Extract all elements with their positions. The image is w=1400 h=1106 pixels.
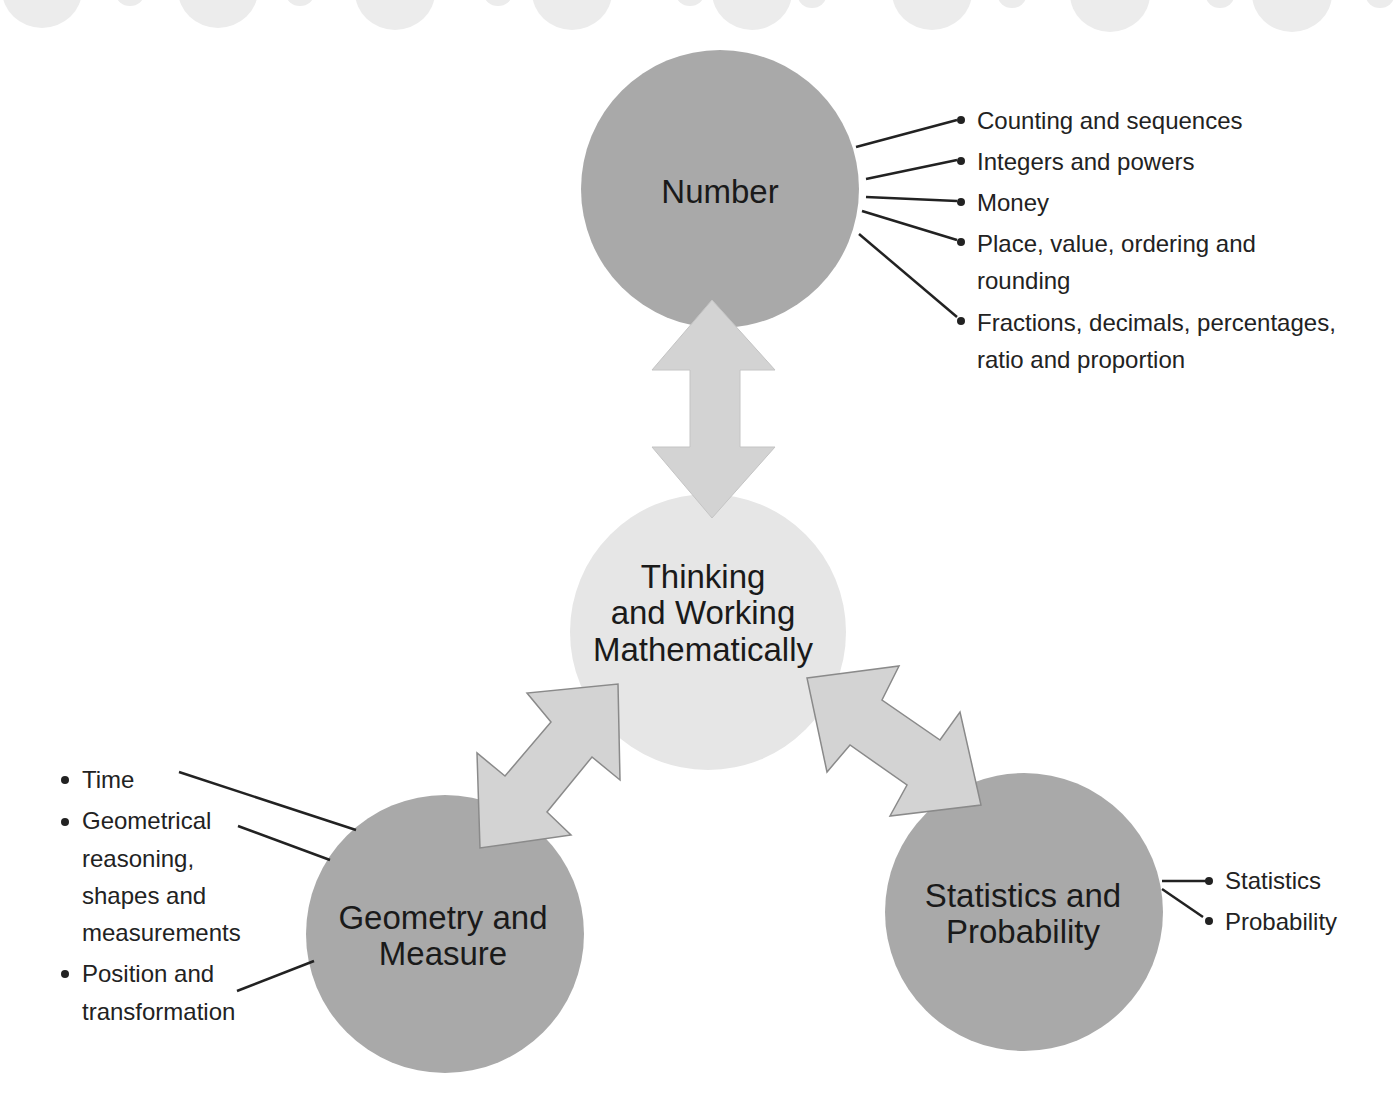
geometry-title-line2: Measure — [338, 936, 547, 972]
bullet-icon — [61, 776, 69, 784]
number-connectors — [856, 120, 957, 317]
geometry-item-geometrical: Geometrical — [82, 802, 211, 839]
bullet-icon — [957, 238, 965, 246]
thinking-title-line2: and Working — [593, 595, 813, 631]
geometry-item-geometrical-cont1: reasoning, — [82, 840, 194, 877]
statistics-title-line2: Probability — [925, 914, 1121, 950]
number-item-fractions-cont: ratio and proportion — [977, 341, 1185, 378]
double-arrow-vertical-icon — [652, 300, 775, 518]
bullet-icon — [957, 116, 965, 124]
bullet-icon — [61, 970, 69, 978]
thinking-title-line1: Thinking — [593, 559, 813, 595]
statistics-item-statistics: Statistics — [1225, 862, 1321, 899]
geometry-item-time: Time — [82, 761, 134, 798]
thinking-title-line3: Mathematically — [593, 631, 813, 667]
double-arrow-right-diagonal-icon — [807, 666, 981, 816]
thinking-title: Thinking and Working Mathematically — [593, 559, 813, 668]
geometry-item-geometrical-cont3: measurements — [82, 914, 241, 951]
number-title: Number — [661, 174, 778, 210]
number-item-money: Money — [977, 184, 1049, 221]
geometry-item-geometrical-cont2: shapes and — [82, 877, 206, 914]
number-item-fractions: Fractions, decimals, percentages, — [977, 304, 1336, 341]
geometry-title: Geometry and Measure — [338, 900, 547, 971]
geometry-item-position: Position and — [82, 955, 214, 992]
number-item-integers: Integers and powers — [977, 143, 1194, 180]
geometry-title-line1: Geometry and — [338, 900, 547, 936]
number-item-counting: Counting and sequences — [977, 102, 1243, 139]
geometry-item-position-cont: transformation — [82, 993, 235, 1030]
number-item-place-value: Place, value, ordering and — [977, 225, 1256, 262]
statistics-connectors — [1162, 881, 1206, 917]
bullet-icon — [61, 818, 69, 826]
bullet-icon — [1205, 877, 1213, 885]
number-item-place-value-cont: rounding — [977, 262, 1070, 299]
bullet-icon — [957, 157, 965, 165]
decorative-top-border — [2, 0, 1394, 32]
statistics-title-line1: Statistics and — [925, 878, 1121, 914]
bullet-icon — [957, 317, 965, 325]
double-arrow-left-diagonal-icon — [477, 684, 620, 848]
statistics-item-probability: Probability — [1225, 903, 1337, 940]
bullet-icon — [1205, 917, 1213, 925]
bullet-icon — [957, 198, 965, 206]
statistics-title: Statistics and Probability — [925, 878, 1121, 949]
